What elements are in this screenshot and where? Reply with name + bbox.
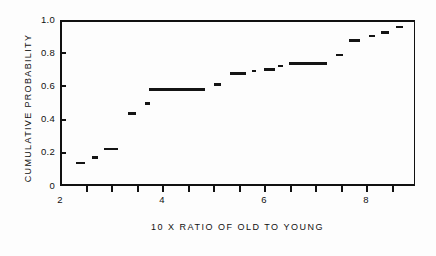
step-segment [396, 26, 403, 29]
step-segment [92, 156, 98, 159]
x-tick-mark [162, 186, 164, 192]
plot-area [60, 20, 415, 186]
step-segment [264, 68, 275, 71]
x-tick-label-6: 6 [251, 194, 277, 205]
x-tick-mark [264, 186, 266, 192]
x-tick-label-4: 4 [149, 194, 175, 205]
x-tick-mark [239, 186, 241, 192]
step-segment [76, 162, 85, 165]
x-tick-mark [86, 186, 88, 192]
step-segment [230, 72, 246, 75]
step-segment [128, 112, 136, 115]
chart-figure: 1.0 0.8 0.6 0.4 0.2 0 2 4 6 8 CUMULATIVE… [0, 0, 436, 256]
step-segment [289, 62, 327, 65]
step-segment [369, 35, 375, 38]
x-tick-mark [315, 186, 317, 192]
x-tick-mark [137, 186, 139, 192]
x-tick-mark [188, 186, 190, 192]
step-segment [145, 102, 150, 105]
x-tick-label-2: 2 [47, 194, 73, 205]
x-axis-label: 10 X RATIO OF OLD TO YOUNG [60, 222, 415, 232]
x-tick-mark [290, 186, 292, 192]
x-tick-label-8: 8 [353, 194, 379, 205]
x-tick-mark [392, 186, 394, 192]
x-tick-mark [111, 186, 113, 192]
x-tick-mark [366, 186, 368, 192]
step-segment [252, 70, 256, 73]
x-tick-mark [213, 186, 215, 192]
step-segment [381, 31, 390, 34]
y-axis-label: CUMULATIVE PROBABILITY [23, 18, 33, 198]
step-segment [349, 39, 360, 42]
x-tick-mark [341, 186, 343, 192]
step-segment [278, 65, 283, 68]
step-segment [149, 88, 205, 91]
step-segment [336, 54, 342, 57]
step-series [62, 22, 414, 184]
step-segment [104, 148, 118, 151]
step-segment [214, 83, 221, 86]
